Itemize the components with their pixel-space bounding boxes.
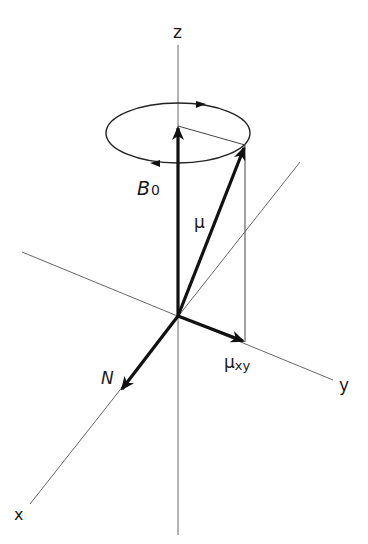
mu-xy-vector: [178, 316, 243, 341]
mu-vector: [178, 148, 244, 316]
mu-xy-label: μxy: [224, 352, 251, 373]
x-axis-label: x: [14, 505, 23, 524]
z-axis-label: z: [173, 22, 182, 42]
mu-label: μ: [194, 212, 205, 232]
precession-diagram: z y x B0 μ μxy N: [0, 0, 368, 544]
n-vector: [122, 316, 178, 389]
radius-line: [178, 126, 245, 145]
b0-label: B0: [137, 177, 160, 199]
n-label: N: [101, 368, 114, 388]
y-axis-label: y: [339, 375, 349, 395]
orbit-arrow-top-icon: [196, 101, 206, 108]
